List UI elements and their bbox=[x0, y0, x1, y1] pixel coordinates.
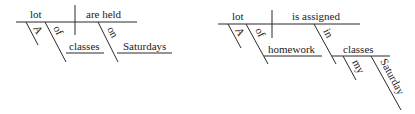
predicate-word: is assigned bbox=[292, 10, 340, 22]
object-word: classes bbox=[69, 40, 100, 52]
preposition-word: in bbox=[321, 26, 336, 40]
preposition-word: on bbox=[105, 24, 121, 40]
subject-word: lot bbox=[30, 8, 42, 20]
preposition-word: of bbox=[51, 23, 66, 37]
predicate-word: are held bbox=[86, 8, 122, 20]
modifier-word: A bbox=[233, 25, 247, 38]
object-word: homework bbox=[268, 43, 316, 55]
diagram-left: lot are held A of classes on Saturdays bbox=[16, 5, 172, 62]
object-word: Saturdays bbox=[123, 40, 166, 52]
sentence-diagrams: lot are held A of classes on Saturdays l… bbox=[0, 0, 415, 114]
preposition-word: of bbox=[253, 25, 268, 39]
modifier-word: A bbox=[31, 23, 45, 36]
subject-word: lot bbox=[232, 10, 244, 22]
diagram-right: lot is assigned A of homework in classes… bbox=[218, 10, 407, 110]
modifier-word: my bbox=[350, 57, 367, 75]
object-word: classes bbox=[343, 43, 374, 55]
